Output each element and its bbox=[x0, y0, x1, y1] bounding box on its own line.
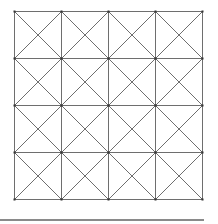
vertex-dot bbox=[14, 152, 16, 154]
vertex-dot bbox=[155, 105, 157, 107]
vertex-dot bbox=[202, 58, 204, 60]
vertex-dot bbox=[202, 11, 204, 13]
vertex-dot bbox=[202, 199, 204, 201]
vertex-dot bbox=[61, 105, 63, 107]
vertex-dot bbox=[61, 152, 63, 154]
vertex-dot bbox=[202, 152, 204, 154]
vertex-dot bbox=[108, 199, 110, 201]
vertex-dot bbox=[155, 11, 157, 13]
horizontal-divider bbox=[0, 219, 204, 221]
vertex-dot bbox=[202, 105, 204, 107]
vertex-dot bbox=[155, 58, 157, 60]
vertex-dot bbox=[155, 152, 157, 154]
vertex-dot bbox=[61, 199, 63, 201]
vertex-dot bbox=[14, 11, 16, 13]
vertex-dot bbox=[108, 58, 110, 60]
vertex-dot bbox=[14, 105, 16, 107]
vertex-dot bbox=[14, 199, 16, 201]
vertex-dot bbox=[61, 11, 63, 13]
vertex-dot bbox=[108, 11, 110, 13]
grid-diagram bbox=[0, 0, 218, 224]
vertex-dot bbox=[61, 58, 63, 60]
vertex-dot bbox=[14, 58, 16, 60]
vertex-dot bbox=[108, 105, 110, 107]
vertex-dot bbox=[108, 152, 110, 154]
vertex-dot bbox=[155, 199, 157, 201]
